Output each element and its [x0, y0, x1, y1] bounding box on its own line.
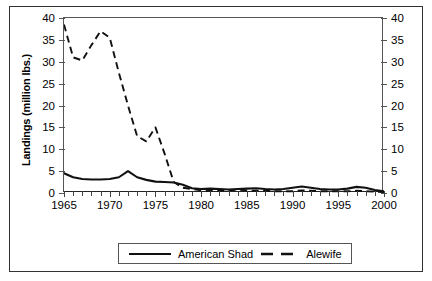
- plot-area: 0055101015152020252530303535404019651970…: [63, 17, 383, 192]
- legend-swatch-dashed: [260, 250, 300, 258]
- chart-legend: American Shad Alewife: [118, 243, 352, 264]
- legend-label-alewife: Alewife: [306, 248, 341, 260]
- plot-lines: [64, 18, 384, 193]
- y-axis-title: Landings (million lbs.): [20, 20, 32, 200]
- legend-item-alewife: Alewife: [260, 248, 341, 260]
- legend-item-american-shad: American Shad: [128, 248, 253, 260]
- series-line-alewife: [64, 25, 384, 193]
- legend-swatch-solid: [128, 250, 172, 258]
- series-line-american-shad: [64, 171, 384, 191]
- chart-figure: Landings (million lbs.) 0055101015152020…: [0, 0, 432, 281]
- legend-label-american-shad: American Shad: [178, 248, 253, 260]
